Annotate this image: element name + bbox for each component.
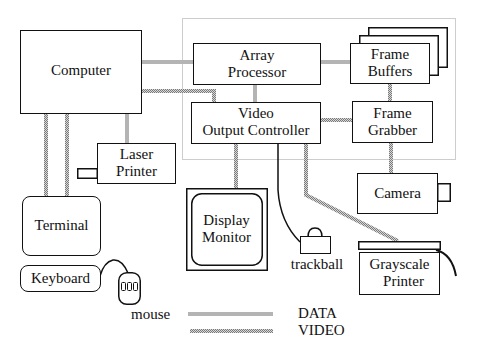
frame-grabber-label-line1: Frame xyxy=(352,105,433,122)
grayscale-printer-feed xyxy=(359,242,441,250)
display-monitor-label-line1: Display xyxy=(186,212,267,229)
keyboard-label: Keyboard xyxy=(20,270,101,287)
trackball-box xyxy=(300,236,331,254)
legend-data-label: DATA xyxy=(298,305,337,322)
laser-printer-tray xyxy=(78,169,98,179)
computer-label: Computer xyxy=(20,62,142,79)
video-output-controller-label-line1: Video xyxy=(191,105,321,122)
frame-buffers-label-line2: Buffers xyxy=(350,63,430,80)
display-monitor-label-line2: Monitor xyxy=(186,229,267,246)
camera-label: Camera xyxy=(357,185,438,202)
array-processor-label-line1: Array xyxy=(193,47,321,64)
legend-video-label: VIDEO xyxy=(298,322,345,339)
grayscale-printer-label-line2: Printer xyxy=(363,273,444,290)
trackball-label: trackball xyxy=(290,256,344,273)
camera-lens xyxy=(438,184,451,202)
frame-grabber-label-line2: Grabber xyxy=(352,122,433,139)
grayscale-printer-label-line1: Grayscale xyxy=(359,256,440,273)
laser-printer-label-line2: Printer xyxy=(97,163,176,180)
laser-printer-label-line1: Laser xyxy=(97,146,176,163)
mouse-label: mouse xyxy=(131,306,176,323)
frame-buffers-label-line1: Frame xyxy=(350,46,430,63)
video-output-controller-label-line2: Output Controller xyxy=(191,122,321,139)
terminal-label: Terminal xyxy=(22,217,101,234)
array-processor-label-line2: Processor xyxy=(193,64,321,81)
trackball-cable xyxy=(278,143,300,242)
